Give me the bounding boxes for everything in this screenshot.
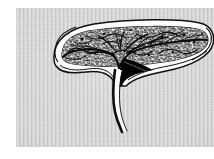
illustration-root <box>0 0 214 159</box>
anatomical-figure <box>16 8 214 147</box>
scan-panel <box>16 8 214 147</box>
